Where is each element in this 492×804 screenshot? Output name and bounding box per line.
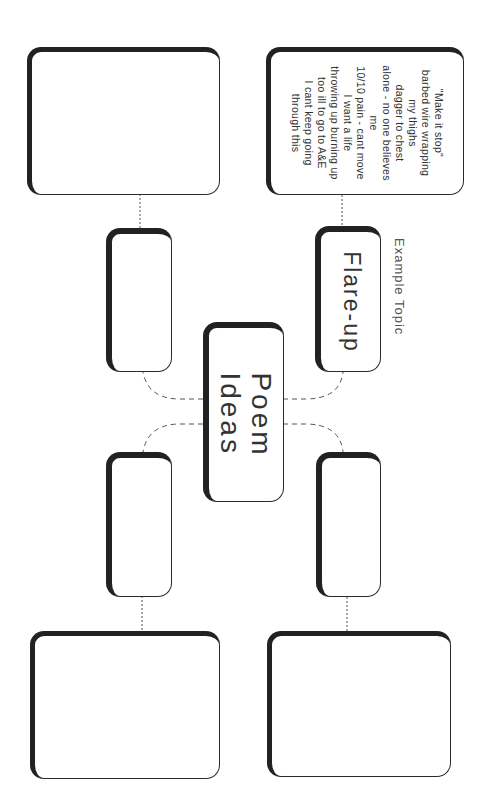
note-line: barbed wire wrapping	[419, 65, 432, 180]
note-line: me	[367, 65, 380, 180]
example-topic-caption: Example Topic	[392, 238, 407, 335]
note-line: I want a life	[341, 65, 354, 180]
note-line: dagger to chest	[393, 65, 406, 180]
notes-box-top-right[interactable]: "Make it stop" barbed wire wrapping my t…	[266, 47, 464, 195]
notes-box-bottom-right[interactable]	[267, 631, 451, 777]
note-line: too ill to go to A&E	[315, 65, 328, 180]
central-node-poem-ideas[interactable]: Poem Ideas	[203, 322, 284, 502]
topic-box-top-left[interactable]	[106, 228, 172, 372]
note-line: my thighs	[406, 65, 419, 180]
central-node-title: Poem Ideas	[215, 372, 277, 457]
note-line: I cant keep going	[302, 65, 315, 180]
notes-box-bottom-left[interactable]	[30, 631, 220, 779]
topic-box-flare-up[interactable]: Flare-up	[315, 226, 381, 372]
note-line: alone - no one believes	[380, 65, 393, 180]
topic-title-flare-up: Flare-up	[337, 251, 364, 353]
note-line: through this	[289, 65, 302, 180]
central-title-line-1: Poem	[246, 372, 277, 457]
topic-box-bottom-right[interactable]	[316, 452, 381, 597]
topic-box-bottom-left[interactable]	[106, 452, 172, 597]
note-line: "Make it stop"	[432, 65, 445, 180]
notes-box-top-left[interactable]	[27, 47, 220, 195]
mind-map-canvas: "Make it stop" barbed wire wrapping my t…	[0, 0, 492, 804]
note-line: throwing up burning up	[328, 65, 341, 180]
note-line: 10/10 pain - cant move	[354, 65, 367, 180]
flare-up-notes: "Make it stop" barbed wire wrapping my t…	[289, 65, 445, 180]
central-title-line-2: Ideas	[215, 372, 246, 457]
